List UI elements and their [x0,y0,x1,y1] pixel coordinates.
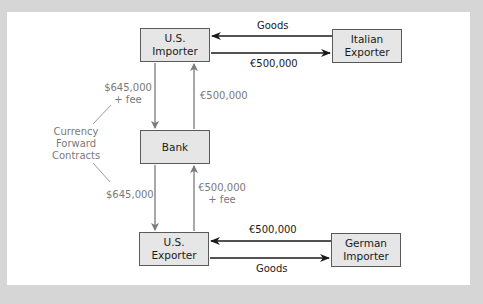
label-euro-fee-bottom-line1: €500,000 [198,182,246,194]
node-us-exporter-line1: U.S. [163,236,184,249]
node-italian-exporter: Italian Exporter [332,29,402,63]
label-euro-top: €500,000 [250,58,298,70]
label-usd-fee-top: $645,000 + fee [104,82,152,106]
annotation-line2: Forward [52,138,100,150]
node-german-importer-line1: German [345,237,387,250]
node-german-importer-line2: Importer [343,250,389,263]
label-euro-fee-bottom-line2: + fee [198,194,246,206]
leader-line-top [93,105,111,124]
node-bank-label: Bank [162,141,188,154]
node-italian-exporter-line1: Italian [351,33,384,46]
label-usd-fee-top-line2: + fee [104,94,152,106]
label-goods-top: Goods [257,20,289,32]
node-bank: Bank [140,130,210,164]
annotation-line1: Currency [52,126,100,138]
leader-line-bottom [93,163,110,182]
annotation-currency-forward-contracts: Currency Forward Contracts [52,126,100,162]
label-euro-bank-top: €500,000 [200,90,248,102]
node-german-importer: German Importer [331,233,401,267]
node-us-exporter: U.S. Exporter [139,232,209,266]
label-euro-fee-bottom: €500,000 + fee [198,182,246,206]
node-us-importer-line2: Importer [152,45,198,58]
node-us-exporter-line2: Exporter [151,249,196,262]
label-goods-bottom: Goods [256,263,288,275]
node-italian-exporter-line2: Exporter [344,46,389,59]
node-us-importer-line1: U.S. [164,32,185,45]
node-us-importer: U.S. Importer [140,28,210,62]
annotation-line3: Contracts [52,150,100,162]
label-euro-bottom: €500,000 [249,224,297,236]
label-usd-bottom: $645,000 [106,189,154,201]
label-usd-fee-top-line1: $645,000 [104,82,152,94]
